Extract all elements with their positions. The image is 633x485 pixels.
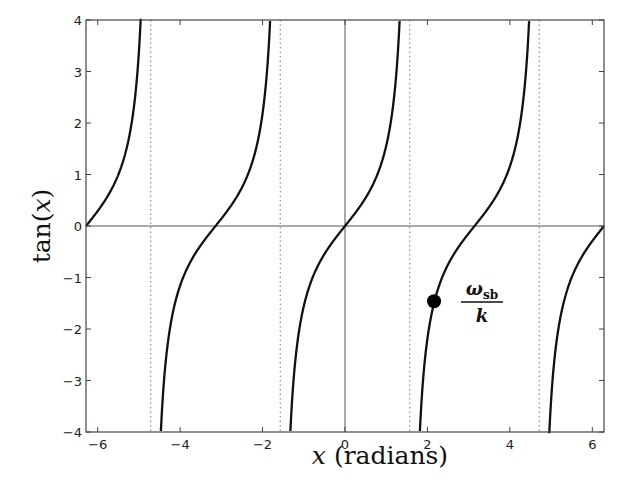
- marker-label: ωsb k: [461, 278, 503, 326]
- y-tick-label: 1: [74, 168, 82, 183]
- y-axis-label: tan(x): [27, 189, 56, 264]
- marker-dot: [427, 294, 441, 308]
- x-axis-label: x (radians): [312, 441, 448, 470]
- svg-text:ωsb: ωsb: [466, 278, 498, 302]
- y-tick-label: −3: [63, 374, 82, 389]
- omega-marker: [427, 294, 441, 308]
- y-tick-label: −4: [63, 425, 82, 440]
- y-tick-label: −2: [63, 322, 82, 337]
- y-tick-label: 0: [74, 219, 82, 234]
- x-tick-label: −2: [253, 437, 272, 452]
- y-tick-label: 4: [74, 13, 82, 28]
- y-tick-label: 3: [74, 65, 82, 80]
- x-tick-label: −4: [171, 437, 190, 452]
- x-tick-label: −6: [88, 437, 107, 452]
- y-tick-label: −1: [63, 271, 82, 286]
- x-tick-label: 4: [506, 437, 514, 452]
- tan-plot: −6−4−20246−4−3−2−101234 x (radians) tan(…: [0, 0, 633, 485]
- x-tick-label: 6: [588, 437, 596, 452]
- tick-marks: −6−4−20246−4−3−2−101234: [63, 13, 604, 452]
- y-tick-label: 2: [74, 116, 82, 131]
- svg-text:k: k: [476, 305, 488, 326]
